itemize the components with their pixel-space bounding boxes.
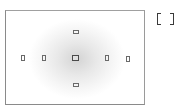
af-frame-bracket-icon <box>157 13 174 25</box>
af-point-top <box>73 30 79 34</box>
af-point-center <box>72 55 79 61</box>
bracket-right <box>170 13 174 25</box>
bracket-left <box>157 13 161 25</box>
af-point-right-outer <box>126 56 130 62</box>
af-point-left-inner <box>42 55 46 61</box>
af-point-right-inner <box>105 55 109 61</box>
af-point-left-outer <box>21 55 25 61</box>
af-point-bottom <box>73 83 79 87</box>
